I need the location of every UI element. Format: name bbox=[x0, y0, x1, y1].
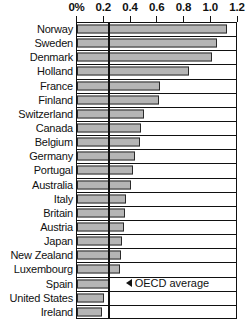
x-axis-tick-label: 1.0 bbox=[203, 1, 218, 13]
category-label-holland: Holland bbox=[37, 65, 73, 77]
bar-germany bbox=[77, 152, 135, 161]
bar-switzerland bbox=[77, 109, 144, 118]
row-separator bbox=[76, 93, 237, 94]
row-separator bbox=[76, 50, 237, 51]
category-label-united-states: United States bbox=[10, 292, 73, 304]
bar-row: Holland bbox=[0, 64, 248, 78]
bar-row: Canada bbox=[0, 121, 248, 135]
x-axis-tick-label: 0.8 bbox=[176, 1, 191, 13]
x-axis-tick-label: 1.2 bbox=[229, 1, 244, 13]
bar-row: Norway bbox=[0, 22, 248, 36]
category-label-france: France bbox=[40, 80, 73, 92]
row-separator bbox=[76, 206, 237, 207]
bar-row: Finland bbox=[0, 93, 248, 107]
row-separator bbox=[76, 79, 237, 80]
row-separator bbox=[76, 149, 237, 150]
bar-holland bbox=[77, 67, 189, 76]
bar-row: Japan bbox=[0, 234, 248, 248]
left-arrow-icon bbox=[126, 279, 132, 287]
row-separator bbox=[76, 220, 237, 221]
row-separator bbox=[76, 36, 237, 37]
bar-row: Sweden bbox=[0, 36, 248, 50]
row-separator bbox=[76, 234, 237, 235]
row-separator bbox=[76, 192, 237, 193]
bar-sweden bbox=[77, 39, 217, 48]
bar-row: France bbox=[0, 79, 248, 93]
oecd-average-line bbox=[108, 22, 110, 319]
bar-australia bbox=[77, 180, 131, 189]
bar-row: New Zealand bbox=[0, 248, 248, 262]
category-label-new-zealand: New Zealand bbox=[10, 249, 73, 261]
bar-row: Denmark bbox=[0, 50, 248, 64]
bar-row: Portugal bbox=[0, 163, 248, 177]
category-label-belgium: Belgium bbox=[35, 136, 73, 148]
bar-united-states bbox=[77, 293, 104, 302]
bar-austria bbox=[77, 223, 124, 232]
category-label-australia: Australia bbox=[32, 179, 73, 191]
oecd-average-label: OECD average bbox=[135, 277, 210, 289]
bar-row: United States bbox=[0, 291, 248, 305]
bar-britain bbox=[77, 208, 125, 217]
bar-row: Switzerland bbox=[0, 107, 248, 121]
bar-italy bbox=[77, 194, 126, 203]
x-axis-tick-label: 0.2 bbox=[96, 1, 111, 13]
row-separator bbox=[76, 178, 237, 179]
bar-row: Belgium bbox=[0, 135, 248, 149]
category-label-switzerland: Switzerland bbox=[18, 108, 73, 120]
bar-france bbox=[77, 81, 160, 90]
bar-portugal bbox=[77, 166, 133, 175]
category-label-finland: Finland bbox=[38, 94, 73, 106]
category-label-japan: Japan bbox=[44, 235, 73, 247]
bar-rows: NorwaySwedenDenmarkHollandFranceFinlandS… bbox=[0, 22, 248, 319]
bar-row: Britain bbox=[0, 206, 248, 220]
x-axis-tick-label: 0% bbox=[68, 1, 84, 13]
bar-chart: 0%0.20.40.60.81.01.2 NorwaySwedenDenmark… bbox=[0, 0, 248, 327]
bar-spain bbox=[77, 279, 109, 288]
bar-luxembourg bbox=[77, 265, 120, 274]
category-label-ireland: Ireland bbox=[41, 306, 73, 318]
category-label-luxembourg: Luxembourg bbox=[14, 263, 73, 275]
bar-denmark bbox=[77, 53, 212, 62]
category-label-norway: Norway bbox=[37, 23, 73, 35]
row-separator bbox=[76, 248, 237, 249]
row-separator bbox=[76, 291, 237, 292]
row-separator bbox=[76, 64, 237, 65]
bar-row: Austria bbox=[0, 220, 248, 234]
x-axis-tick-label: 0.6 bbox=[149, 1, 164, 13]
category-label-austria: Austria bbox=[40, 221, 73, 233]
row-separator bbox=[76, 135, 237, 136]
category-label-sweden: Sweden bbox=[34, 37, 73, 49]
row-separator bbox=[76, 262, 237, 263]
category-label-italy: Italy bbox=[54, 193, 73, 205]
category-label-canada: Canada bbox=[36, 122, 73, 134]
bar-japan bbox=[77, 237, 122, 246]
bar-finland bbox=[77, 95, 159, 104]
row-separator bbox=[76, 107, 237, 108]
bar-row: Ireland bbox=[0, 305, 248, 319]
bar-row: Germany bbox=[0, 149, 248, 163]
category-label-germany: Germany bbox=[29, 150, 73, 162]
bar-norway bbox=[77, 25, 227, 34]
bar-row: Spain bbox=[0, 277, 248, 291]
bar-row: Australia bbox=[0, 178, 248, 192]
row-separator bbox=[76, 163, 237, 164]
row-separator bbox=[76, 121, 237, 122]
row-separator bbox=[76, 305, 237, 306]
x-axis-tick-label: 0.4 bbox=[122, 1, 137, 13]
category-label-denmark: Denmark bbox=[30, 51, 73, 63]
bar-row: Italy bbox=[0, 192, 248, 206]
oecd-average-annotation: OECD average bbox=[126, 277, 210, 289]
category-label-spain: Spain bbox=[46, 278, 73, 290]
bar-row: Luxembourg bbox=[0, 262, 248, 276]
category-label-britain: Britain bbox=[43, 207, 73, 219]
category-label-portugal: Portugal bbox=[34, 164, 73, 176]
bar-new-zealand bbox=[77, 251, 121, 260]
bar-ireland bbox=[77, 307, 102, 316]
